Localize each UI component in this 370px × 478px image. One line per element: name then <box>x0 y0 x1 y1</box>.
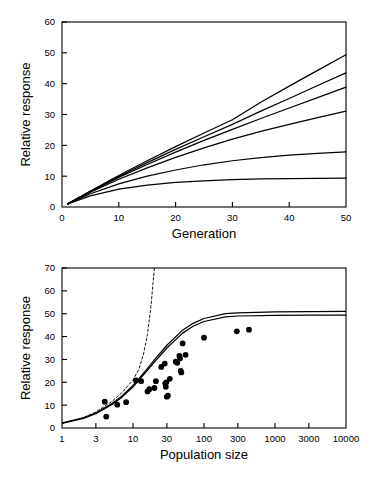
data-point <box>234 328 240 334</box>
y-tick-label: 0 <box>50 201 55 212</box>
x-tick-label: 0 <box>59 212 64 223</box>
series-curve-2 <box>68 73 346 204</box>
x-tick-label: 3 <box>93 433 98 444</box>
plot-content <box>62 268 346 423</box>
x-tick-label: 10000 <box>333 433 359 444</box>
x-tick-label: 10 <box>114 212 125 223</box>
data-point <box>162 361 168 367</box>
chart-panel-bottom: 0102030405060701310301003001000300010000… <box>0 238 370 478</box>
data-point <box>201 335 207 341</box>
data-point <box>103 414 109 420</box>
x-tick-label: 30 <box>162 433 173 444</box>
data-point <box>177 355 183 361</box>
y-tick-label: 10 <box>44 171 55 182</box>
y-axis-title: Relative response <box>18 296 33 400</box>
chart-panel-top: 010203040506001020304050GenerationRelati… <box>0 0 370 240</box>
y-tick-label: 30 <box>44 354 55 365</box>
series-curve-3 <box>68 87 346 204</box>
x-tick-label: 40 <box>284 212 295 223</box>
series-curve-4 <box>68 111 346 204</box>
x-tick-label: 1000 <box>264 433 285 444</box>
x-tick-label: 20 <box>170 212 181 223</box>
x-tick-label: 30 <box>227 212 238 223</box>
data-point <box>146 386 152 392</box>
series-fitted-curve-upper <box>62 311 346 423</box>
y-tick-label: 30 <box>44 109 55 120</box>
y-tick-label: 10 <box>44 400 55 411</box>
x-axis-title: Population size <box>160 447 248 462</box>
y-tick-label: 50 <box>44 308 55 319</box>
y-tick-label: 40 <box>44 78 55 89</box>
x-tick-label: 3000 <box>298 433 319 444</box>
x-tick-label: 10 <box>128 433 139 444</box>
scientific-figure: 010203040506001020304050GenerationRelati… <box>0 0 370 478</box>
plot-frame <box>62 22 346 207</box>
data-point <box>114 402 120 408</box>
x-tick-label: 1 <box>59 433 64 444</box>
x-tick-label: 300 <box>230 433 246 444</box>
y-tick-label: 60 <box>44 285 55 296</box>
data-point <box>102 399 108 405</box>
y-tick-label: 60 <box>44 16 55 27</box>
data-point <box>133 378 139 384</box>
y-tick-label: 20 <box>44 377 55 388</box>
data-point <box>123 399 129 405</box>
data-point <box>178 370 184 376</box>
data-point <box>180 341 186 347</box>
y-tick-label: 0 <box>50 422 55 433</box>
data-point <box>153 378 159 384</box>
data-point <box>246 327 252 333</box>
data-point <box>165 393 171 399</box>
data-point <box>183 352 189 358</box>
y-tick-label: 40 <box>44 331 55 342</box>
series-asymptote-reference-dashed <box>62 268 154 423</box>
top-chart-svg: 010203040506001020304050GenerationRelati… <box>0 0 370 240</box>
y-tick-label: 70 <box>44 262 55 273</box>
y-tick-label: 50 <box>44 47 55 58</box>
x-tick-label: 50 <box>341 212 352 223</box>
y-tick-label: 20 <box>44 140 55 151</box>
bottom-chart-svg: 0102030405060701310301003001000300010000… <box>0 238 370 478</box>
data-point <box>138 378 144 384</box>
data-point <box>167 376 173 382</box>
data-point <box>151 385 157 391</box>
y-axis-title: Relative response <box>18 62 33 166</box>
x-tick-label: 100 <box>196 433 212 444</box>
